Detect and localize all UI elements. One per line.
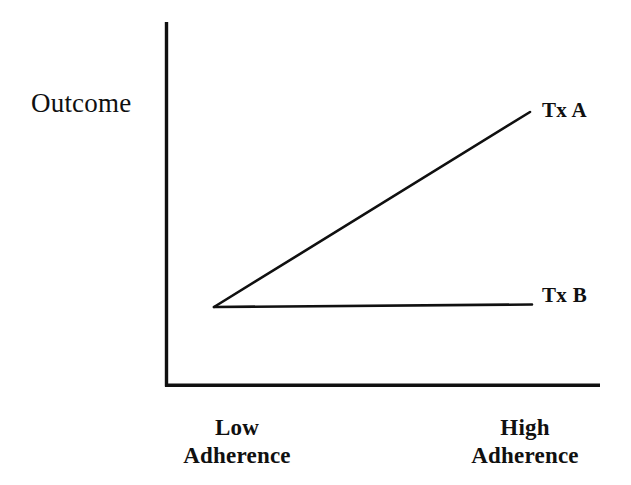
chart-figure: Outcome Tx A Tx B Low Adherence High Adh… <box>0 0 631 485</box>
y-axis-title: Outcome <box>31 90 131 117</box>
series-line-tx-b <box>214 305 532 308</box>
x-tick-label-high-line1: High <box>425 414 625 442</box>
series-line-tx-a <box>214 112 530 307</box>
x-tick-label-low: Low Adherence <box>137 414 337 470</box>
series-label-tx-a: Tx A <box>542 100 587 121</box>
chart-plot-area <box>0 0 631 485</box>
series-label-tx-b: Tx B <box>542 285 587 306</box>
x-tick-label-high-line2: Adherence <box>425 442 625 470</box>
x-tick-label-low-line1: Low <box>137 414 337 442</box>
x-tick-label-low-line2: Adherence <box>137 442 337 470</box>
x-tick-label-high: High Adherence <box>425 414 625 470</box>
